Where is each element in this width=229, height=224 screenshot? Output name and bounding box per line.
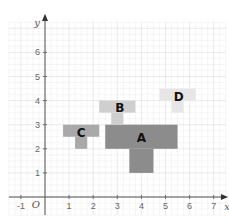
shape-label: B — [115, 101, 124, 115]
x-tick-label: 5 — [163, 201, 168, 211]
y-tick-label: 2 — [35, 144, 40, 154]
x-tick-label: 7 — [211, 201, 216, 211]
y-axis-arrow-icon — [42, 14, 48, 21]
x-tick-label: -1 — [17, 201, 25, 211]
y-tick-label: 4 — [35, 96, 40, 106]
coordinate-grid-diagram: ABCD -11234567123456Oxy — [0, 0, 229, 224]
x-tick-label: 1 — [67, 201, 72, 211]
y-tick-label: 3 — [35, 120, 40, 130]
shape-label: C — [77, 126, 86, 140]
x-tick-label: 4 — [139, 201, 144, 211]
x-tick-label: 2 — [91, 201, 96, 211]
y-axis-label: y — [33, 17, 40, 28]
shape-label: D — [174, 90, 184, 104]
y-tick-label: 6 — [35, 47, 40, 57]
shape-a: A — [105, 125, 177, 173]
x-tick-label: 6 — [187, 201, 192, 211]
y-tick-label: 1 — [35, 168, 40, 178]
shape-d: D — [159, 89, 195, 113]
shape-c: C — [63, 125, 99, 149]
x-tick-label: 3 — [115, 201, 120, 211]
shape-b: B — [99, 101, 135, 125]
shape-label: A — [137, 131, 147, 145]
x-axis-label: x — [224, 201, 229, 212]
origin-label: O — [32, 199, 40, 210]
x-axis-arrow-icon — [221, 194, 228, 200]
y-tick-label: 5 — [35, 72, 40, 82]
shapes: ABCD — [63, 89, 196, 173]
shape-rect — [129, 149, 153, 173]
